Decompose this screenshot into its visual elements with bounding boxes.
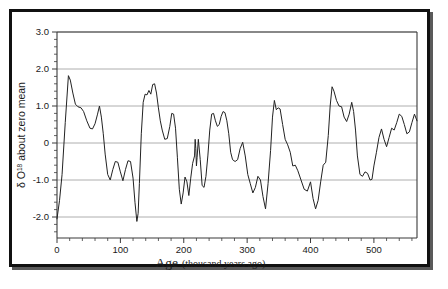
y-axis-title-suffix: about zero mean bbox=[15, 82, 27, 164]
y-tick-label: 3.0 bbox=[36, 26, 49, 37]
x-axis-ticks-group bbox=[57, 238, 412, 243]
x-tick-labels-group: 0100200300400500 bbox=[54, 244, 381, 255]
y-tick-label: 1.0 bbox=[36, 100, 49, 111]
x-tick-label: 300 bbox=[239, 244, 255, 255]
oxygen-isotope-line-chart: 3.02.01.00-1.0-2.0 0100200300400500 δ O1… bbox=[0, 0, 448, 289]
x-axis-title-main: Age bbox=[156, 255, 179, 270]
y-tick-labels-group: 3.02.01.00-1.0-2.0 bbox=[33, 26, 49, 222]
gridlines-group bbox=[57, 32, 417, 217]
axes-group bbox=[57, 32, 417, 238]
y-tick-label: -1.0 bbox=[33, 174, 49, 185]
x-axis-title-sub: (thousand years ago) bbox=[182, 258, 265, 270]
y-axis-ticks-group bbox=[52, 32, 57, 232]
y-axis-title-prefix: δ O bbox=[15, 171, 27, 188]
y-tick-label: -2.0 bbox=[33, 211, 49, 222]
series-group bbox=[57, 76, 417, 222]
figure-container: 3.02.01.00-1.0-2.0 0100200300400500 δ O1… bbox=[0, 0, 448, 289]
y-axis-title: δ O18 about zero mean bbox=[15, 82, 27, 188]
x-tick-label: 0 bbox=[54, 244, 59, 255]
x-tick-label: 100 bbox=[112, 244, 128, 255]
series-line-delta-o18 bbox=[57, 76, 417, 222]
x-tick-label: 400 bbox=[303, 244, 319, 255]
y-tick-label: 0 bbox=[44, 137, 49, 148]
y-tick-label: 2.0 bbox=[36, 63, 49, 74]
x-tick-label: 200 bbox=[176, 244, 192, 255]
x-tick-label: 500 bbox=[366, 244, 382, 255]
plot-wrapper: 3.02.01.00-1.0-2.0 0100200300400500 δ O1… bbox=[0, 0, 448, 289]
